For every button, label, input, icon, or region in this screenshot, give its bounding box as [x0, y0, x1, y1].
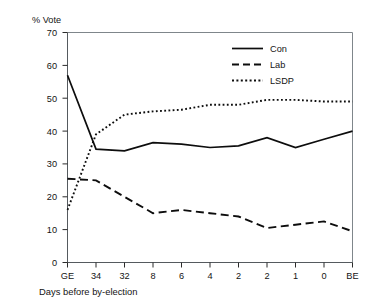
legend-label-lab: Lab: [270, 60, 285, 70]
y-axis-ticks: [63, 33, 68, 263]
x-tick-label-ge: GE: [61, 271, 74, 281]
x-axis-title: Days before by-election: [39, 286, 138, 297]
x-tick-label-be: BE: [346, 271, 358, 281]
x-tick-label-2b: 2: [264, 271, 269, 281]
chart-legend: Con Lab LSDP: [232, 44, 294, 86]
y-tick-label-70: 70: [47, 28, 57, 38]
series-line-con: [68, 75, 353, 151]
y-tick-label-0: 0: [52, 258, 57, 268]
series-line-lsdp: [68, 100, 353, 210]
y-tick-label-10: 10: [47, 225, 57, 235]
x-tick-label-32: 32: [119, 271, 129, 281]
y-axis-title: % Vote: [32, 15, 61, 25]
data-series-group: [68, 75, 353, 231]
x-tick-label-6: 6: [179, 271, 184, 281]
line-chart-figure: 70 60 50 40 30 20 10 0 % Vote GE: [0, 0, 373, 305]
x-tick-label-1: 1: [293, 271, 298, 281]
y-axis-tick-labels: 70 60 50 40 30 20 10 0: [47, 28, 57, 268]
y-tick-label-40: 40: [47, 127, 57, 137]
x-tick-label-8: 8: [150, 271, 155, 281]
y-tick-label-60: 60: [47, 61, 57, 71]
series-line-lab: [68, 179, 353, 232]
chart-svg: 70 60 50 40 30 20 10 0 % Vote GE: [0, 0, 373, 305]
x-tick-label-2a: 2: [236, 271, 241, 281]
x-tick-label-34: 34: [91, 271, 101, 281]
legend-label-con: Con: [270, 44, 287, 54]
x-tick-label-4: 4: [207, 271, 212, 281]
y-tick-label-20: 20: [47, 192, 57, 202]
x-axis-ticks: [68, 263, 353, 268]
y-tick-label-30: 30: [47, 159, 57, 169]
y-tick-label-50: 50: [47, 94, 57, 104]
legend-label-lsdp: LSDP: [270, 76, 294, 86]
x-axis-tick-labels: GE 34 32 8 6 4 2 2 1 0 BE: [61, 271, 359, 281]
x-tick-label-0: 0: [321, 271, 326, 281]
